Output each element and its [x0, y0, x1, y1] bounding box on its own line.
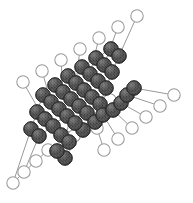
dark-sphere-atom — [99, 81, 113, 95]
dark-sphere-atom — [62, 135, 76, 149]
open-circle-atom — [93, 32, 105, 44]
open-circle-atom — [74, 43, 86, 55]
dark-sphere-atom — [68, 116, 82, 130]
sphere-shading — [105, 65, 119, 79]
open-circle-atom — [98, 144, 110, 156]
open-circle-atom — [30, 155, 42, 167]
sphere-shading — [112, 49, 126, 63]
open-circle-atom — [36, 65, 48, 77]
dark-sphere-atom — [32, 129, 46, 143]
open-circle-atom — [7, 177, 19, 189]
open-circle-atom — [154, 100, 166, 112]
open-circle-atom — [140, 111, 152, 123]
dark-sphere-atom — [127, 81, 141, 95]
open-circle-atom — [112, 133, 124, 145]
sphere-shading — [50, 144, 64, 158]
open-circle-atom — [112, 21, 124, 33]
open-circle-atom — [18, 166, 30, 178]
open-circle-atom — [168, 89, 180, 101]
sphere-shading — [99, 81, 113, 95]
dark-sphere-atom — [105, 65, 119, 79]
dark-sphere-atom — [50, 144, 64, 158]
lattice-canvas — [0, 0, 193, 203]
sphere-shading — [127, 81, 141, 95]
open-circle-atom — [131, 10, 143, 22]
open-circle-atom — [55, 54, 67, 66]
open-circle-atom — [126, 122, 138, 134]
sphere-shading — [68, 116, 82, 130]
lattice-figure — [0, 0, 193, 203]
open-circle-atom — [17, 76, 29, 88]
sphere-shading — [62, 135, 76, 149]
sphere-shading — [32, 129, 46, 143]
dark-sphere-atom — [112, 49, 126, 63]
